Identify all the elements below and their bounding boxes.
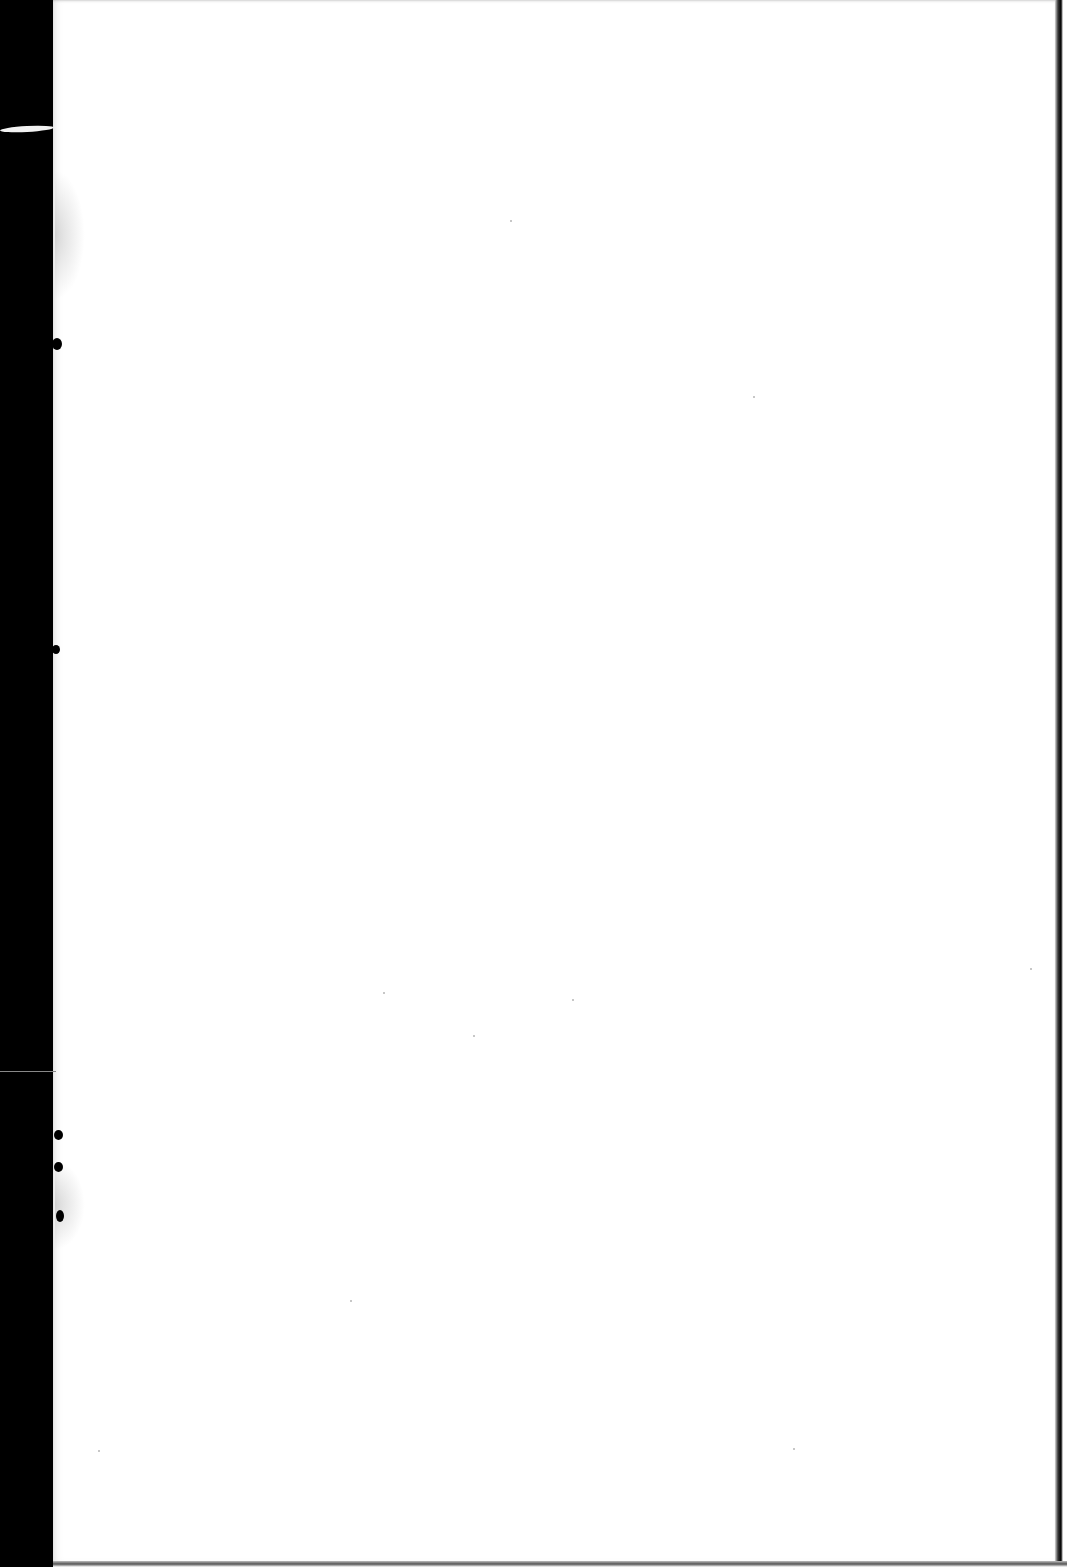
scan-speck [1030, 968, 1032, 970]
edge-notch [54, 1162, 63, 1172]
scan-speck [753, 396, 755, 398]
scan-background [0, 0, 1067, 1567]
edge-shadow [55, 1160, 85, 1250]
scan-speck [572, 999, 574, 1001]
bottom-page-border [53, 1561, 1067, 1567]
binding-margin [0, 0, 56, 1567]
edge-notch [56, 1210, 64, 1222]
scan-speck [510, 220, 512, 222]
right-page-border [1055, 0, 1067, 1567]
scan-speck [473, 1035, 475, 1037]
edge-shadow [55, 170, 85, 300]
blank-page [53, 0, 1055, 1562]
scan-speck [350, 1300, 352, 1302]
edge-notch [52, 338, 62, 350]
paper-crease-line [0, 1071, 56, 1072]
scan-speck [383, 992, 385, 994]
edge-notch [52, 645, 60, 654]
scan-speck [98, 1450, 100, 1452]
scan-speck [793, 1448, 795, 1450]
edge-notch [54, 1130, 63, 1140]
